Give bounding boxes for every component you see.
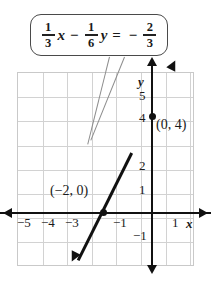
- y-tick-label-negative-1: −1: [133, 228, 147, 244]
- negative-sign: −: [129, 27, 138, 44]
- x-tick-label-1: 1: [172, 215, 179, 231]
- fraction-denominator: 6: [87, 37, 95, 50]
- fraction-two-thirds: 2 3: [143, 21, 156, 50]
- figure-coordinate-graph: 1 3 x − 1 6 y = − 2 3 y x 5 4 2 1 −1: [0, 0, 211, 284]
- y-tick-label-4: 4: [139, 110, 146, 126]
- point-label-x-intercept: (−2, 0): [50, 183, 88, 199]
- variable-y: y: [101, 27, 108, 44]
- fraction-denominator: 3: [146, 37, 154, 50]
- y-tick-label-2: 2: [139, 158, 146, 174]
- equation-callout-box: 1 3 x − 1 6 y = − 2 3: [30, 14, 168, 56]
- fraction-one-third: 1 3: [42, 21, 55, 50]
- plotted-line-arrow-up-icon: [166, 58, 179, 71]
- x-axis-label: x: [186, 216, 193, 232]
- fraction-denominator: 3: [44, 37, 52, 50]
- equals-sign: =: [112, 27, 121, 44]
- x-tick-label-negative-3: −3: [65, 215, 79, 231]
- x-axis-arrow-left-icon: [3, 208, 12, 218]
- y-axis-arrow-up-icon: [147, 57, 157, 66]
- point-label-y-intercept: (0, 4): [156, 117, 186, 133]
- fraction-one-sixth: 1 6: [85, 21, 98, 50]
- point-marker-x-intercept: [100, 209, 107, 216]
- y-tick-label-1: 1: [139, 182, 146, 198]
- x-tick-label-negative-4: −4: [41, 215, 55, 231]
- x-tick-label-negative-1: −1: [113, 215, 127, 231]
- fraction-numerator: 2: [146, 21, 154, 34]
- y-axis: [151, 64, 153, 268]
- y-tick-label-5: 5: [139, 88, 146, 104]
- x-tick-label-negative-5: −5: [17, 215, 31, 231]
- minus-operator: −: [70, 27, 79, 44]
- point-marker-y-intercept: [149, 113, 156, 120]
- variable-x: x: [58, 27, 66, 44]
- equation-expression: 1 3 x − 1 6 y = − 2 3: [31, 15, 167, 55]
- fraction-numerator: 1: [44, 21, 52, 34]
- y-axis-arrow-down-icon: [147, 265, 157, 274]
- x-axis-arrow-right-icon: [199, 208, 208, 218]
- fraction-numerator: 1: [87, 21, 95, 34]
